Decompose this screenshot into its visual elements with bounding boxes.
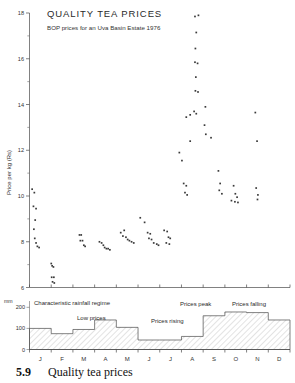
data-point [186, 194, 188, 196]
data-point [165, 242, 167, 244]
data-point [31, 188, 33, 190]
data-point [139, 217, 141, 219]
data-point [156, 243, 158, 245]
data-point [185, 116, 187, 118]
data-point [204, 124, 206, 126]
y-tick-label: 8 [21, 239, 24, 245]
month-label: D [277, 356, 282, 362]
data-point [34, 238, 36, 240]
data-point [219, 183, 221, 185]
data-point [166, 231, 168, 233]
month-label: O [233, 356, 238, 362]
data-point [103, 244, 105, 246]
data-point [148, 238, 150, 240]
data-point [101, 242, 103, 244]
data-point [37, 246, 39, 248]
data-point [195, 113, 197, 115]
rainfall-unit-label: mm [4, 298, 13, 304]
data-point [163, 230, 165, 232]
x-axis-ticks-scatter [30, 285, 291, 288]
month-labels: JFMAMJJASOND [39, 356, 282, 362]
data-point [79, 234, 81, 236]
data-point [106, 248, 108, 250]
scatter-panel: QUALITY TEA PRICES BOP prices for an Uva… [6, 8, 290, 291]
data-point [195, 76, 197, 78]
data-point [80, 240, 82, 242]
y-tick-label: 14 [18, 102, 24, 108]
data-point [184, 192, 186, 194]
caption-number: 5.9 [16, 365, 31, 379]
y-tick-label: 12 [18, 147, 24, 153]
annotation-prices-peak: Prices peak [180, 301, 212, 307]
data-point [53, 266, 55, 268]
data-point [236, 196, 238, 198]
data-point [189, 114, 191, 116]
data-point [125, 236, 127, 238]
chart-title: QUALITY TEA PRICES [47, 8, 162, 19]
data-point [158, 244, 160, 246]
chart-subtitle: BOP prices for an Uva Basin Estate 1976 [47, 24, 161, 31]
data-point [38, 247, 40, 249]
month-label: A [190, 356, 194, 362]
rainfall-panel: mm 0100200 JFMAMJJASOND Characteristic r… [4, 298, 290, 362]
data-point [231, 200, 233, 202]
data-point [234, 201, 236, 203]
data-point [129, 240, 131, 242]
data-point [35, 242, 37, 244]
data-point [169, 238, 171, 240]
month-label: M [125, 356, 130, 362]
y-tick-label: 16 [18, 56, 24, 62]
data-point [255, 187, 257, 189]
chart-svg: QUALITY TEA PRICES BOP prices for an Uva… [0, 0, 295, 383]
data-point [53, 282, 55, 284]
data-point [195, 32, 197, 34]
rainfall-tick-label: 100 [16, 325, 25, 331]
scatter-points [31, 14, 258, 283]
month-label: F [60, 356, 64, 362]
rainfall-tick-label: 200 [16, 304, 25, 310]
data-point [194, 61, 196, 63]
month-label: J [147, 356, 150, 362]
annotation-low-prices: Low prices [77, 315, 106, 321]
data-point [233, 185, 235, 187]
month-label: J [169, 356, 172, 362]
data-point [254, 112, 256, 114]
data-point [257, 199, 259, 201]
data-point [50, 263, 52, 265]
data-point [147, 232, 149, 234]
rainfall-y-ticks: 0100200 [16, 304, 30, 352]
data-point [99, 241, 101, 243]
y-axis-ticks: 681012141618 [18, 10, 30, 291]
data-point [178, 152, 180, 154]
data-point [107, 248, 109, 250]
data-point [168, 236, 170, 238]
data-point [193, 111, 195, 113]
y-tick-label: 18 [18, 10, 24, 16]
month-label: M [81, 356, 86, 362]
data-point [80, 234, 82, 236]
data-point [153, 242, 155, 244]
month-label: S [212, 356, 216, 362]
month-label: A [103, 356, 107, 362]
data-point [34, 219, 36, 221]
x-axis-ticks-rainfall [30, 350, 291, 353]
data-point [237, 202, 239, 204]
data-point [205, 106, 207, 108]
data-point [195, 48, 197, 50]
data-point [197, 91, 199, 93]
data-point [35, 208, 37, 210]
data-point [195, 90, 197, 92]
data-point [257, 194, 259, 196]
rainfall-tick-label: 0 [22, 347, 25, 353]
data-point [218, 189, 220, 191]
month-label: N [255, 356, 259, 362]
annotation-rainfall-regime: Characteristic rainfall regime [34, 300, 111, 306]
data-point [133, 242, 135, 244]
y-axis-label: Price per kg (Rs) [6, 150, 12, 195]
data-point [185, 185, 187, 187]
data-point [122, 235, 124, 237]
data-point [183, 183, 185, 185]
data-point [127, 239, 129, 241]
figure-quality-tea-prices: QUALITY TEA PRICES BOP prices for an Uva… [0, 0, 295, 383]
data-point [131, 241, 133, 243]
